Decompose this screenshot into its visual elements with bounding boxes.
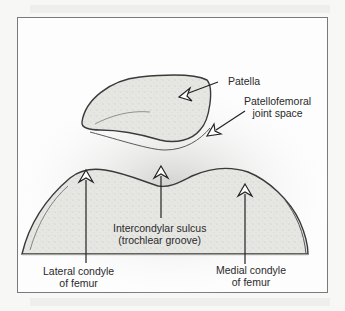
label-lateral-line1: Lateral condyle: [43, 265, 114, 277]
label-joint-space-line2: joint space: [244, 107, 311, 119]
label-joint-space: Patellofemoral joint space: [244, 95, 311, 119]
label-medial-line2: of femur: [216, 276, 286, 288]
label-medial-condyle: Medial condyle of femur: [216, 264, 286, 288]
label-sulcus: Intercondylar sulcus (trochlear groove): [113, 222, 206, 246]
label-sulcus-line2: (trochlear groove): [113, 234, 206, 246]
label-lateral-line2: of femur: [43, 277, 114, 289]
label-medial-line1: Medial condyle: [216, 264, 286, 276]
label-patella: Patella: [228, 75, 260, 87]
label-sulcus-line1: Intercondylar sulcus: [113, 222, 206, 234]
label-lateral-condyle: Lateral condyle of femur: [43, 265, 114, 289]
label-joint-space-line1: Patellofemoral: [244, 95, 311, 107]
